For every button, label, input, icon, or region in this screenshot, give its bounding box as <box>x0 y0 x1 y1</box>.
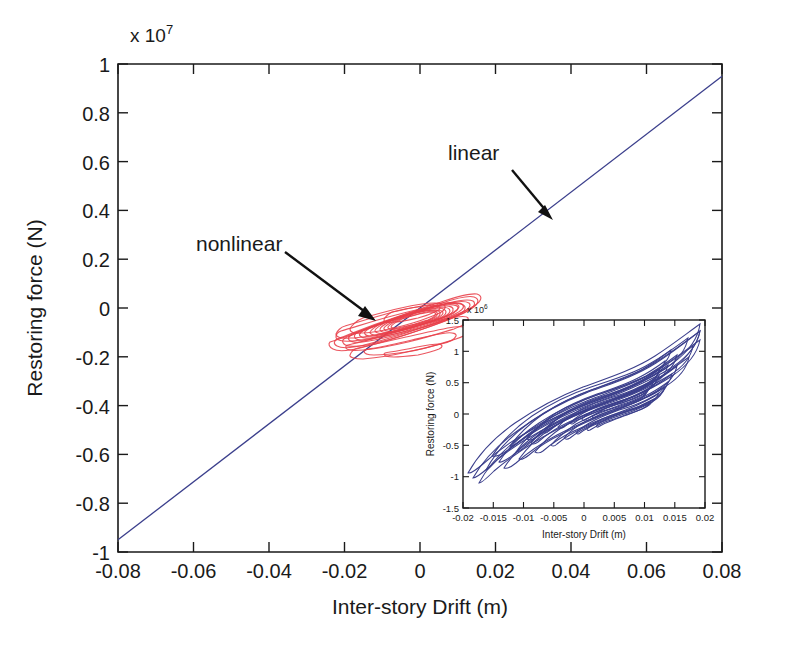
x-ticklabel: -0.02 <box>322 560 368 582</box>
inset-y-ticklabel: 1 <box>454 346 459 357</box>
inset-x-ticklabel: -0.02 <box>452 512 474 523</box>
inset-y-axis-title: Restoring force (N) <box>425 372 436 456</box>
annotation-linear-label: linear <box>448 141 499 164</box>
y-ticklabel: 0.8 <box>82 103 110 125</box>
y-ticklabel: 1 <box>99 54 110 76</box>
y-ticklabel: 0.6 <box>82 152 110 174</box>
x-ticklabel: 0.06 <box>627 560 666 582</box>
inset-plot: x 106 1.5 1 0.5 0 -0.5 -1 -1.5 <box>425 303 714 540</box>
inset-y-ticklabel: -0.5 <box>443 440 459 451</box>
y-ticklabel: -0.4 <box>76 396 110 418</box>
inset-x-ticklabel: -0.015 <box>480 512 507 523</box>
y-ticklabel: -0.8 <box>76 493 110 515</box>
inset-x-ticklabel: -0.01 <box>513 512 535 523</box>
inset-x-ticklabel: -0.005 <box>540 512 567 523</box>
inset-y-ticklabel: 0.5 <box>446 377 459 388</box>
x-ticklabel: 0.02 <box>476 560 515 582</box>
y-axis-title: Restoring force (N) <box>23 219 46 396</box>
annotation-nonlinear-label: nonlinear <box>196 232 282 255</box>
inset-x-ticklabel: 0.005 <box>602 512 626 523</box>
inset-x-ticklabel: 0.015 <box>663 512 687 523</box>
x-ticklabel: 0.04 <box>552 560 591 582</box>
inset-y-ticklabel: 1.5 <box>446 315 459 326</box>
y-ticklabel: 0.4 <box>82 200 110 222</box>
figure-container: x 107 1 0.8 0.6 0.4 0.2 0 -0.2 -0.4 -0.6… <box>0 0 785 657</box>
inset-x-axis-title: Inter-story Drift (m) <box>542 529 626 540</box>
inset-x-ticklabels: -0.02 -0.015 -0.01 -0.005 0 0.005 0.01 0… <box>452 512 714 523</box>
y-ticklabel: -0.2 <box>76 347 110 369</box>
x-ticklabel: 0.08 <box>703 560 742 582</box>
inset-y-ticklabel: -1 <box>451 471 459 482</box>
inset-x-ticklabel: 0.02 <box>696 512 715 523</box>
x-ticklabel: -0.06 <box>171 560 217 582</box>
x-ticklabel: -0.08 <box>95 560 141 582</box>
inset-y-ticklabel: 0 <box>454 409 459 420</box>
inset-x-ticklabel: 0 <box>581 512 586 523</box>
hysteresis-plot: x 107 1 0.8 0.6 0.4 0.2 0 -0.2 -0.4 -0.6… <box>0 0 785 657</box>
y-ticklabel: -0.6 <box>76 444 110 466</box>
y-ticklabel: 0 <box>99 298 110 320</box>
x-ticklabel: -0.04 <box>246 560 292 582</box>
inset-x-ticklabel: 0.01 <box>635 512 654 523</box>
inset-axes-frame <box>463 320 705 508</box>
x-ticklabel: 0 <box>414 560 425 582</box>
main-x-ticklabels: -0.08 -0.06 -0.04 -0.02 0 0.02 0.04 0.06… <box>95 560 741 582</box>
x-axis-title: Inter-story Drift (m) <box>332 595 508 618</box>
y-ticklabel: 0.2 <box>82 249 110 271</box>
